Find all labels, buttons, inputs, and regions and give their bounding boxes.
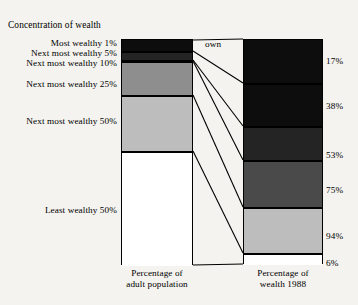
axis-caption-wealth-1988: Percentage of wealth 1988 <box>243 268 323 290</box>
axis-caption-adult-population: Percentage of adult population <box>121 268 193 290</box>
own-label: own <box>205 39 221 49</box>
wealth-concentration-chart: Concentration of wealth Most wealthy 1% … <box>0 0 358 305</box>
value-label-17: 17% <box>326 56 343 66</box>
axis-caption-right-line2: wealth 1988 <box>260 279 306 289</box>
connector-line-50 <box>193 151 243 253</box>
axis-caption-left-line1: Percentage of <box>131 268 183 278</box>
connector-line-25 <box>193 95 243 207</box>
connector-line-bottom <box>193 264 243 265</box>
value-label-94: 94% <box>326 231 343 241</box>
axis-caption-left-line2: adult population <box>126 279 188 289</box>
connector-line-1 <box>193 51 243 83</box>
connector-line-5 <box>193 60 243 126</box>
value-label-38: 38% <box>326 101 343 111</box>
value-label-6: 6% <box>326 258 338 268</box>
value-label-53: 53% <box>326 150 343 160</box>
connector-lines <box>0 0 358 305</box>
axis-caption-right-line1: Percentage of <box>257 268 309 278</box>
value-label-75: 75% <box>326 185 343 195</box>
